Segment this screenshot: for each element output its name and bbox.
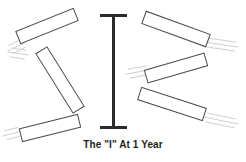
figure-caption: The "I" At 1 Year — [83, 139, 163, 150]
beam-stem — [112, 14, 115, 129]
figure-container: The "I" At 1 Year — [0, 0, 246, 162]
figure-svg: The "I" At 1 Year — [0, 0, 246, 162]
beam-bottom-serif — [100, 126, 127, 129]
